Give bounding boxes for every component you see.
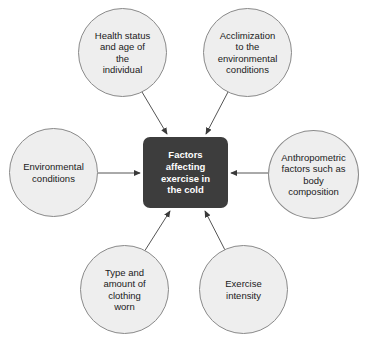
node-anthropometric-factors[interactable]: Anthropometric factors such as body comp… (268, 130, 359, 219)
node-environmental-conditions-label: Environmental conditions (10, 161, 97, 184)
node-health-status[interactable]: Health status and age of the individual (78, 8, 167, 97)
connector-acclimization-to-center (206, 92, 228, 134)
center-node-label: Factors affecting exercise in the cold (161, 149, 210, 195)
connector-health-to-center (142, 92, 167, 134)
node-anthropometric-factors-label: Anthropometric factors such as body comp… (269, 152, 358, 198)
connector-clothing-to-center (144, 211, 170, 252)
node-exercise-intensity[interactable]: Exercise intensity (199, 245, 288, 334)
node-health-status-label: Health status and age of the individual (79, 30, 166, 76)
center-node-factors[interactable]: Factors affecting exercise in the cold (143, 137, 228, 208)
node-acclimization-label: Acclimization to the environmental condi… (204, 30, 291, 76)
node-environmental-conditions[interactable]: Environmental conditions (9, 128, 98, 217)
node-clothing[interactable]: Type and amount of clothing worn (80, 245, 169, 334)
connector-intensity-to-center (205, 211, 226, 252)
node-exercise-intensity-label: Exercise intensity (200, 278, 287, 301)
concept-diagram: Health status and age of the individual … (0, 0, 367, 339)
node-acclimization[interactable]: Acclimization to the environmental condi… (203, 8, 292, 97)
node-clothing-label: Type and amount of clothing worn (81, 267, 168, 313)
